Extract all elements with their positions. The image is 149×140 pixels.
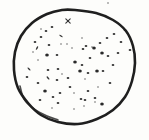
stipple-mark (107, 55, 110, 57)
stipple-mark (48, 44, 51, 46)
stipple-mark (84, 78, 86, 80)
stipple-mark (51, 107, 53, 109)
stipple-mark (40, 28, 42, 30)
stipple-mark (89, 57, 92, 59)
stipple-mark (82, 48, 85, 50)
stipple-mark (80, 98, 83, 100)
stipple-mark (60, 43, 62, 45)
stipple-mark (27, 67, 31, 71)
stipple-mark (117, 52, 120, 54)
stipple-mark (78, 70, 82, 73)
stipple-mark (84, 99, 87, 101)
stipple-mark (69, 86, 72, 88)
stipple-mark (59, 92, 62, 94)
stipple-mark (81, 37, 83, 39)
stipple-mark (124, 29, 127, 31)
stipple-mark (32, 51, 34, 53)
stipple-mark (39, 99, 42, 101)
stipple-mark (37, 59, 39, 61)
stipple-mark (129, 49, 132, 51)
stipple-mark (56, 79, 59, 81)
stipple-mark (59, 34, 63, 38)
stipple-mark (51, 26, 54, 28)
stipple-mark (102, 70, 105, 72)
stipple-mark (83, 105, 85, 107)
stipple-mark (73, 61, 77, 64)
stipple-mark (45, 30, 48, 32)
stipple-mark (87, 90, 90, 92)
stipple-mark (43, 90, 47, 93)
stipple-mark (81, 64, 84, 66)
stipple-mark (120, 41, 123, 43)
stipple-mark (85, 45, 88, 47)
stipple-mark (100, 103, 104, 106)
stipple-mark (66, 43, 68, 45)
stipple-mark (45, 54, 49, 57)
stipple-mark (46, 76, 50, 80)
stipple-mark (57, 102, 60, 104)
stipple-mark (73, 92, 75, 94)
stipple-mark (92, 47, 96, 50)
stipple-mark (106, 37, 109, 39)
stipple-mark (67, 77, 70, 79)
stipple-mark (47, 69, 50, 71)
stipple-mark (37, 82, 40, 84)
stipple-mark (109, 82, 112, 84)
sketch-canvas (0, 0, 149, 140)
stipple-mark (52, 96, 55, 98)
stipple-mark (97, 86, 99, 88)
stipple-x-mark (66, 19, 70, 23)
stipple-mark (34, 41, 37, 43)
stippled-circle-svg (0, 0, 149, 140)
stipple-mark (100, 52, 104, 55)
stipple-mark (94, 97, 97, 99)
stipple-mark (40, 36, 43, 38)
stipple-mark (95, 70, 99, 73)
stipple-mark (87, 72, 90, 74)
stipple-mark (73, 108, 75, 110)
stipple-mark (56, 54, 59, 56)
stipple-mark (26, 76, 29, 78)
stipple-mark (35, 46, 38, 50)
stipple-mark (57, 68, 60, 70)
stipple-mark (113, 33, 116, 35)
stipple-mark (107, 2, 109, 4)
stipple-mark (61, 73, 63, 75)
stipple-mark (112, 64, 115, 66)
stipple-mark (99, 42, 102, 44)
stipple-mark (94, 101, 96, 103)
stipple-mark (71, 47, 73, 49)
